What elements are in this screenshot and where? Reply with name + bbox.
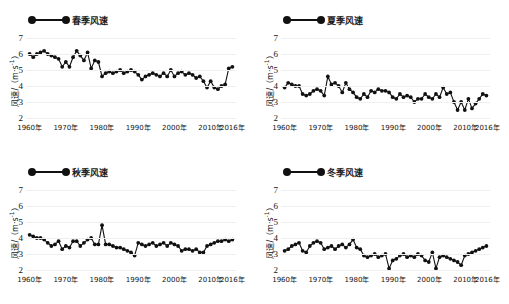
gridline [281, 206, 490, 207]
x-axis-tick: 2016年 [220, 122, 245, 132]
gridline [281, 54, 490, 55]
y-axis-tick: 7 [274, 34, 279, 43]
x-axis-tick: 1960年 [17, 274, 42, 284]
x-axis-tick: 2000年 [162, 122, 187, 132]
gridline [281, 118, 490, 119]
legend-label: 秋季风速 [72, 166, 108, 179]
gridline [26, 102, 236, 103]
legend-spring: 春季风速 [28, 13, 108, 27]
series-winter [281, 190, 490, 270]
plot-area-winter: 7654321960年1970年1980年1990年2000年2010年2016… [281, 190, 490, 270]
y-axis-tick: 5 [19, 218, 24, 227]
gridline [26, 254, 236, 255]
gridline [281, 238, 490, 239]
x-axis-tick: 1970年 [53, 122, 78, 132]
series-summer [281, 38, 490, 118]
gridline [26, 270, 236, 271]
series-autumn [26, 190, 236, 270]
y-axis-tick: 7 [19, 186, 24, 195]
legend-marker-icon [28, 15, 70, 25]
gridline [281, 222, 490, 223]
gridline [26, 70, 236, 71]
x-axis-tick: 1990年 [126, 274, 151, 284]
gridline [26, 206, 236, 207]
legend-label: 夏季风速 [327, 14, 363, 27]
legend-autumn: 秋季风速 [28, 165, 108, 179]
x-axis-tick: 1990年 [126, 122, 151, 132]
panel-autumn: 秋季风速 风速/（m·s-1） 7654321960年1970年1980年199… [0, 152, 255, 304]
gridline [281, 270, 490, 271]
x-axis-tick: 1960年 [272, 274, 297, 284]
x-axis-tick: 2016年 [475, 274, 500, 284]
x-axis-tick: 1960年 [272, 122, 297, 132]
gridline [281, 102, 490, 103]
y-axis-tick: 6 [274, 202, 279, 211]
y-axis-tick: 4 [274, 234, 279, 243]
gridline [281, 254, 490, 255]
seasonal-wind-speed-figure: 春季风速 风速/（m·s-1） 7654321960年1970年1980年199… [0, 0, 509, 304]
x-axis-tick: 1970年 [53, 274, 78, 284]
y-axis-tick: 7 [274, 186, 279, 195]
y-axis-tick: 3 [274, 250, 279, 259]
gridline [26, 86, 236, 87]
y-axis-tick: 5 [274, 218, 279, 227]
x-axis-tick: 1980年 [345, 122, 370, 132]
y-axis-tick: 3 [19, 98, 24, 107]
y-axis-tick: 6 [19, 50, 24, 59]
legend-marker-icon [28, 167, 70, 177]
panel-spring: 春季风速 风速/（m·s-1） 7654321960年1970年1980年199… [0, 0, 255, 152]
x-axis-tick: 2016年 [220, 274, 245, 284]
legend-label: 春季风速 [72, 14, 108, 27]
x-axis-tick: 1980年 [345, 274, 370, 284]
x-axis-tick: 1960年 [17, 122, 42, 132]
gridline [26, 222, 236, 223]
y-axis-tick: 5 [274, 66, 279, 75]
x-axis-tick: 2000年 [162, 274, 187, 284]
x-axis-tick: 1980年 [90, 122, 115, 132]
gridline [281, 38, 490, 39]
y-axis-tick: 3 [19, 250, 24, 259]
legend-summer: 夏季风速 [283, 13, 363, 27]
gridline [26, 190, 236, 191]
gridline [26, 38, 236, 39]
gridline [26, 118, 236, 119]
x-axis-tick: 2000年 [417, 122, 442, 132]
legend-label: 冬季风速 [327, 166, 363, 179]
gridline [26, 54, 236, 55]
x-axis-tick: 1990年 [381, 122, 406, 132]
y-axis-tick: 6 [19, 202, 24, 211]
y-axis-tick: 5 [19, 66, 24, 75]
gridline [26, 238, 236, 239]
legend-marker-icon [283, 15, 325, 25]
legend-marker-icon [283, 167, 325, 177]
x-axis-tick: 2000年 [417, 274, 442, 284]
plot-area-spring: 7654321960年1970年1980年1990年2000年2010年2016… [26, 38, 236, 118]
panel-winter: 冬季风速 风速/（m·s-1） 7654321960年1970年1980年199… [255, 152, 509, 304]
plot-area-summer: 7654321960年1970年1980年1990年2000年2010年2016… [281, 38, 490, 118]
series-spring [26, 38, 236, 118]
legend-winter: 冬季风速 [283, 165, 363, 179]
y-axis-tick: 6 [274, 50, 279, 59]
gridline [281, 190, 490, 191]
x-axis-tick: 2016年 [475, 122, 500, 132]
plot-area-autumn: 7654321960年1970年1980年1990年2000年2010年2016… [26, 190, 236, 270]
gridline [281, 86, 490, 87]
x-axis-tick: 1980年 [90, 274, 115, 284]
gridline [281, 70, 490, 71]
y-axis-tick: 7 [19, 34, 24, 43]
panel-summer: 夏季风速 风速/（m·s-1） 7654321960年1970年1980年199… [255, 0, 509, 152]
y-axis-tick: 4 [274, 82, 279, 91]
x-axis-tick: 1990年 [381, 274, 406, 284]
y-axis-tick: 4 [19, 234, 24, 243]
x-axis-tick: 1970年 [308, 274, 333, 284]
x-axis-tick: 1970年 [308, 122, 333, 132]
y-axis-tick: 3 [274, 98, 279, 107]
y-axis-tick: 4 [19, 82, 24, 91]
